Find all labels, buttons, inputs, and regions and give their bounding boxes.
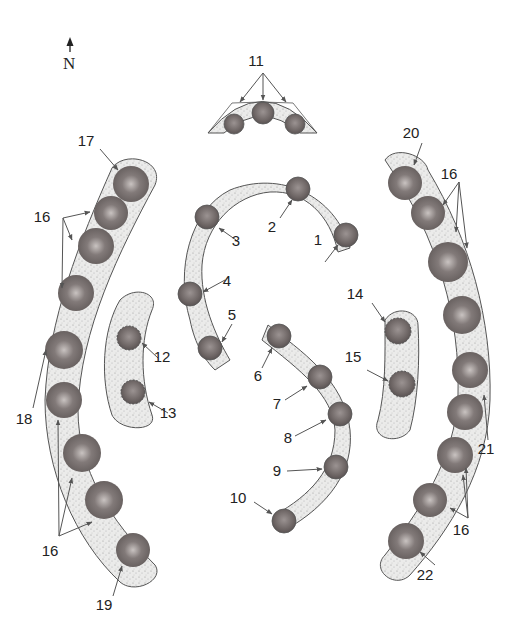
feature-label-10: 10 (230, 489, 247, 506)
feature-label-21: 21 (478, 440, 495, 457)
feature-label-17: 17 (78, 132, 95, 149)
feature-label-16d: 16 (453, 521, 470, 538)
feature-label-16c: 16 (42, 542, 59, 559)
feature-11-arc (208, 73, 317, 134)
site-diagram: N (0, 0, 521, 641)
diagram-canvas: N (0, 0, 521, 641)
feature-label-12: 12 (154, 348, 171, 365)
north-arrow-icon (67, 37, 74, 52)
feature-arc-6-10 (262, 324, 352, 533)
feature-12-13 (104, 292, 153, 428)
feature-label-16b: 16 (441, 165, 458, 182)
feature-label-5: 5 (228, 306, 236, 323)
feature-label-9: 9 (273, 462, 281, 479)
feature-label-11: 11 (248, 52, 264, 69)
feature-label-14: 14 (347, 285, 364, 302)
feature-label-4: 4 (223, 272, 231, 289)
feature-label-18: 18 (16, 410, 33, 427)
feature-label-15: 15 (345, 348, 362, 365)
feature-label-6: 6 (254, 367, 262, 384)
feature-14-15 (377, 311, 419, 439)
feature-label-20: 20 (403, 124, 420, 141)
feature-label-22: 22 (417, 566, 434, 583)
feature-label-7: 7 (273, 395, 281, 412)
feature-label-8: 8 (284, 429, 292, 446)
feature-label-13: 13 (160, 404, 177, 421)
feature-label-3: 3 (232, 232, 240, 249)
feature-label-16a: 16 (34, 208, 51, 225)
feature-label-19: 19 (96, 596, 113, 613)
feature-label-1: 1 (314, 231, 322, 248)
feature-label-2: 2 (268, 218, 276, 235)
north-label: N (63, 54, 75, 73)
